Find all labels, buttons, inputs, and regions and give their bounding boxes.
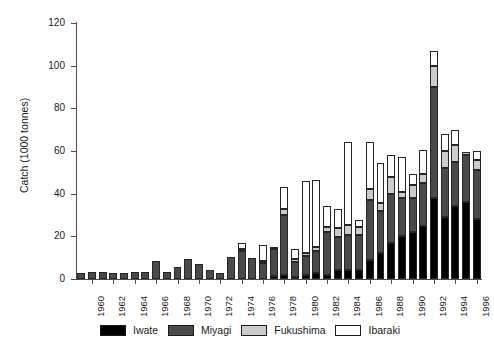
bar-segment-ibaraki (323, 206, 331, 226)
bar-segment-miyagi (248, 258, 256, 279)
legend-item-ibaraki: Ibaraki (335, 324, 400, 336)
x-tick (92, 280, 93, 284)
x-tick (135, 280, 136, 284)
bar (227, 257, 235, 279)
bar-segment-miyagi (152, 261, 160, 279)
bar-segment-miyagi (312, 251, 320, 272)
bar-segment-fukushima (377, 203, 385, 210)
plot-area (76, 23, 482, 279)
bar (88, 272, 96, 279)
bar-segment-iwate (430, 198, 438, 279)
bar-segment-iwate (291, 277, 299, 279)
bar (302, 181, 310, 279)
x-tick (242, 280, 243, 284)
bar (174, 267, 182, 279)
y-tick-label: 20 (31, 231, 65, 241)
bar (377, 163, 385, 279)
y-tick-label: 60 (31, 146, 65, 156)
bar-segment-fukushima (270, 247, 278, 249)
bar (387, 155, 395, 279)
bar-segment-miyagi (88, 272, 96, 279)
x-tick (113, 280, 114, 284)
bar-segment-miyagi (174, 267, 182, 279)
bar (259, 245, 267, 279)
bar-segment-iwate (377, 253, 385, 279)
bar-segment-iwate (270, 276, 278, 279)
bar-segment-fukushima (344, 225, 352, 236)
bar (398, 157, 406, 279)
y-axis-label: Catch (1000 tonnes) (18, 98, 30, 193)
legend-swatch-ibaraki (335, 325, 361, 336)
bar-segment-fukushima (302, 253, 310, 255)
bar-segment-ibaraki (302, 181, 310, 254)
bar (462, 152, 470, 279)
bar-segment-ibaraki (441, 134, 449, 151)
bar-segment-fukushima (387, 177, 395, 194)
bar (451, 130, 459, 279)
x-tick (477, 280, 478, 284)
bar-segment-miyagi (163, 272, 171, 279)
bar (355, 220, 363, 279)
legend-swatch-miyagi (168, 325, 194, 336)
bar-segment-iwate (366, 260, 374, 279)
bar (323, 206, 331, 279)
bar (419, 150, 427, 279)
bar-segment-ibaraki (451, 130, 459, 145)
bar (291, 249, 299, 279)
bar-segment-miyagi (120, 273, 128, 279)
bar-segment-fukushima (323, 227, 331, 232)
bar-segment-miyagi (259, 263, 267, 279)
bar (184, 259, 192, 279)
x-tick-label: 1996 (481, 296, 491, 317)
x-tick-label: 1972 (224, 296, 234, 317)
bar-segment-iwate (323, 275, 331, 279)
bar-segment-iwate (419, 226, 427, 279)
bar-segment-miyagi (441, 168, 449, 217)
x-tick-label: 1976 (267, 296, 277, 317)
bar-segment-miyagi (302, 256, 310, 275)
x-tick-label: 1990 (417, 296, 427, 317)
bar (120, 273, 128, 279)
bar-segment-ibaraki (280, 187, 288, 208)
y-tick-label: 120 (31, 18, 65, 28)
y-tick-label: 0 (31, 274, 65, 284)
bar-segment-iwate (344, 270, 352, 279)
x-tick (455, 280, 456, 284)
x-tick-label: 1974 (246, 296, 256, 317)
bar-segment-ibaraki (409, 174, 417, 185)
bar-segment-fukushima (291, 259, 299, 262)
x-tick-label: 1960 (96, 296, 106, 317)
bar-segment-miyagi (270, 249, 278, 276)
bar-segment-fukushima (419, 174, 427, 183)
chart-figure: Catch (1000 tonnes) 020406080100120 1960… (0, 0, 494, 353)
bar-segment-iwate (409, 232, 417, 279)
bar-segment-ibaraki (398, 157, 406, 191)
bar-segment-miyagi (334, 237, 342, 270)
bar-segment-ibaraki (430, 51, 438, 66)
bar (312, 180, 320, 279)
bar-segment-fukushima (238, 249, 246, 251)
bar-segment-fukushima (451, 145, 459, 162)
bar-segment-miyagi (355, 235, 363, 270)
x-tick-label: 1982 (331, 296, 341, 317)
bar-segment-fukushima (334, 228, 342, 238)
y-tick-label: 100 (31, 61, 65, 71)
chart-legend: IwateMiyagiFukushimaIbaraki (100, 324, 400, 336)
x-tick-label: 1986 (374, 296, 384, 317)
bar-segment-fukushima (430, 66, 438, 87)
bar-segment-miyagi (238, 251, 246, 279)
x-tick (327, 280, 328, 284)
x-tick (199, 280, 200, 284)
bar-segment-miyagi (473, 170, 481, 219)
bar-segment-miyagi (451, 162, 459, 207)
bar-segment-fukushima (462, 152, 470, 155)
x-tick-label: 1970 (203, 296, 213, 317)
legend-label: Ibaraki (368, 324, 400, 336)
x-tick (306, 280, 307, 284)
bar-segment-iwate (280, 275, 288, 279)
bar-segment-miyagi (109, 273, 117, 279)
x-tick-label: 1962 (117, 296, 127, 317)
x-tick (434, 280, 435, 284)
bar-segment-miyagi (387, 194, 395, 243)
bar-segment-ibaraki (344, 142, 352, 224)
